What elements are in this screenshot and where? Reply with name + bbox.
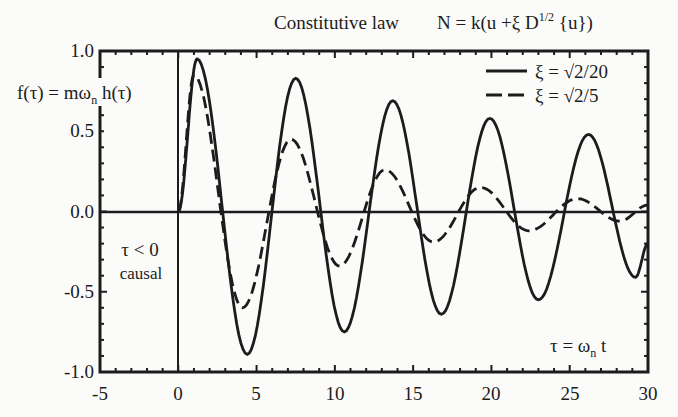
svg-text:0: 0: [173, 383, 183, 404]
svg-text:-0.5: -0.5: [64, 281, 94, 302]
svg-text:15: 15: [404, 383, 423, 404]
legend-label-2: ξ = √2/5: [535, 85, 598, 106]
svg-text:10: 10: [326, 383, 345, 404]
annotation-causal: causal: [120, 264, 163, 283]
svg-text:0.5: 0.5: [70, 120, 94, 141]
series-dashed-line: [178, 75, 648, 308]
svg-text:-5: -5: [92, 383, 108, 404]
legend: ξ = √2/20 ξ = √2/5: [486, 58, 644, 106]
legend-label-1: ξ = √2/20: [535, 61, 608, 82]
chart-title: Constitutive law: [274, 12, 399, 33]
svg-text:-1.0: -1.0: [64, 361, 94, 382]
x-tick-labels: -5 0 5 10 15 20 25 30: [92, 383, 657, 404]
x-axis-label: τ = ωn t: [550, 335, 607, 360]
svg-text:30: 30: [639, 383, 658, 404]
svg-text:0.0: 0.0: [70, 201, 94, 222]
response-chart: Constitutive law N = k(u +ξ D1/2 {u}) 1.…: [0, 0, 678, 417]
svg-text:1.0: 1.0: [70, 40, 94, 61]
svg-text:20: 20: [482, 383, 501, 404]
svg-text:25: 25: [561, 383, 580, 404]
annotation-tau-negative: τ < 0: [121, 239, 158, 260]
svg-text:5: 5: [251, 383, 261, 404]
equation: N = k(u +ξ D1/2 {u}): [437, 10, 593, 34]
